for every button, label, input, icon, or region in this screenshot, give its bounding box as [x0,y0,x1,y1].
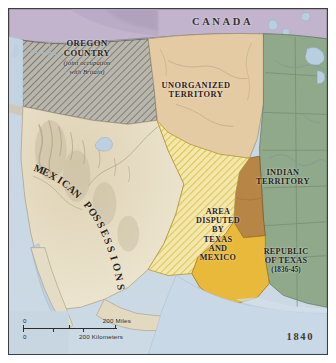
scale-ruler [23,325,131,332]
scale-bar: 0 200 Miles 0 200 Kilometers [23,317,131,340]
mexican-possessions-letter: O [110,262,123,273]
scale-tick [83,328,84,332]
scale-tick [23,328,24,332]
scale-tick [69,325,70,329]
scale-miles-value: 200 Miles [103,317,131,324]
mexican-possessions-letter: I [108,255,120,262]
map-frame: CANADA OREGON COUNTRY (joint occupation … [8,8,328,355]
mexican-possessions-letter: S [115,283,127,291]
scale-tick [115,325,116,329]
region-label-mexican-possessions: MEXICAN POSSESSIONS [9,9,327,354]
scale-km-value: 200 Kilometers [79,333,123,340]
historical-map-figure: CANADA OREGON COUNTRY (joint occupation … [0,0,336,363]
scale-miles-zero: 0 [23,317,27,324]
mexican-possessions-letter: N [113,272,125,282]
mexican-possessions-letter: S [105,245,117,254]
scale-km-zero: 0 [23,333,27,340]
map-year-label: 1840 [287,331,314,342]
scale-tick [53,328,54,332]
scale-axis-line [23,328,117,329]
